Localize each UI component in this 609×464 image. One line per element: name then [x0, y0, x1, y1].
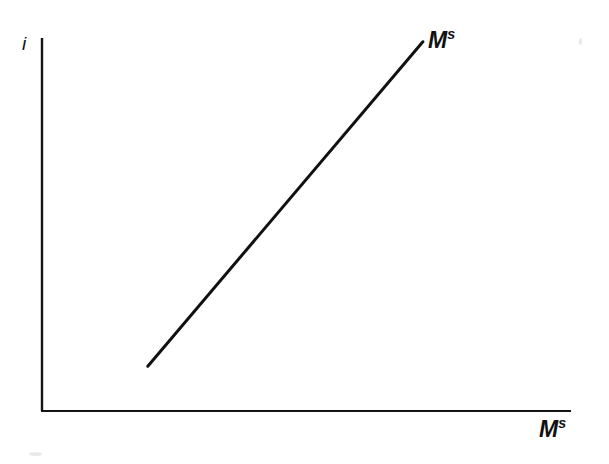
curve-label-base: M [428, 27, 447, 53]
curve-label-superscript: s [447, 26, 455, 42]
x-axis-label-superscript: s [558, 415, 566, 431]
x-axis-label-base: M [539, 416, 558, 442]
figure-canvas [0, 0, 609, 464]
y-axis-label-base: i [22, 33, 26, 54]
scan-speck [579, 38, 582, 45]
scan-speck [29, 452, 42, 456]
money-supply-figure: i Ms Ms [0, 0, 609, 464]
y-axis-label: i [22, 34, 26, 53]
money-supply-curve-line [148, 42, 423, 367]
x-axis-label: Ms [539, 418, 566, 441]
money-supply-curve-label: Ms [428, 29, 455, 52]
